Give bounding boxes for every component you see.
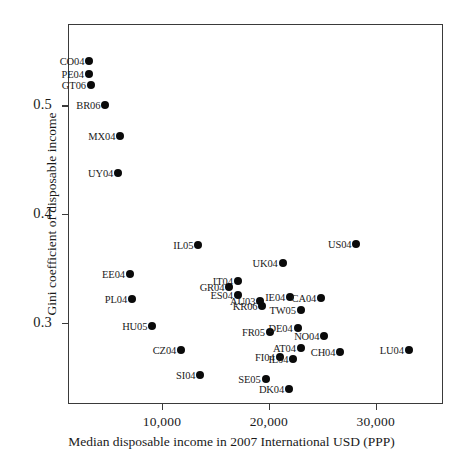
scatter-plot-figure: 0.50.40.3 10,00020,00030,000 CO04PE04GT0…: [0, 0, 463, 460]
data-point-label: IE04: [255, 291, 285, 302]
x-axis-title: Median disposable income in 2007 Interna…: [0, 434, 463, 450]
data-point[interactable]: [320, 332, 328, 340]
data-point-label: EE04: [95, 268, 125, 279]
y-tick-mark: [62, 105, 68, 106]
data-point[interactable]: [128, 295, 136, 303]
data-point[interactable]: [85, 70, 93, 78]
data-point-label: CO04: [54, 55, 84, 66]
data-point-label: GT06: [56, 79, 86, 90]
data-point[interactable]: [297, 344, 305, 352]
data-point-label: NO04: [289, 330, 319, 341]
data-point-label: IL04: [258, 354, 288, 365]
data-point[interactable]: [87, 81, 95, 89]
data-point[interactable]: [285, 385, 293, 393]
data-point[interactable]: [114, 169, 122, 177]
x-tick-mark: [269, 404, 270, 410]
x-tick-label: 10,000: [117, 414, 207, 430]
data-point-label: SI04: [165, 369, 195, 380]
x-tick-label: 20,000: [224, 414, 314, 430]
data-point-label: BR06: [70, 100, 100, 111]
data-point-label: CH04: [305, 346, 335, 357]
data-point[interactable]: [279, 259, 287, 267]
data-point-label: TW05: [266, 304, 296, 315]
data-point-label: PL04: [97, 293, 127, 304]
data-point-label: UY04: [83, 167, 113, 178]
data-point[interactable]: [297, 306, 305, 314]
data-point-label: CZ04: [146, 344, 176, 355]
data-point-label: HU05: [117, 320, 147, 331]
data-point-label: DE04: [263, 323, 293, 334]
data-point-label: KR06: [227, 301, 257, 312]
data-point-label: MX04: [85, 130, 115, 141]
x-tick-mark: [376, 404, 377, 410]
y-axis-title: Gini coefficient of disposable income: [44, 84, 60, 344]
y-tick-mark: [62, 323, 68, 324]
data-point-label: DK04: [254, 383, 284, 394]
x-tick-label: 30,000: [331, 414, 421, 430]
x-tick-mark: [162, 404, 163, 410]
data-point[interactable]: [177, 346, 185, 354]
data-point[interactable]: [405, 346, 413, 354]
data-point-label: US04: [321, 239, 351, 250]
data-point[interactable]: [126, 270, 134, 278]
data-point-label: PE04: [54, 68, 84, 79]
data-point-label: CA04: [286, 292, 316, 303]
data-point-label: FR05: [235, 327, 265, 338]
data-point-label: LU04: [374, 344, 404, 355]
data-point[interactable]: [317, 294, 325, 302]
y-tick-mark: [62, 214, 68, 215]
data-point[interactable]: [262, 375, 270, 383]
data-point-label: UK04: [248, 257, 278, 268]
data-point-label: IL05: [163, 240, 193, 251]
